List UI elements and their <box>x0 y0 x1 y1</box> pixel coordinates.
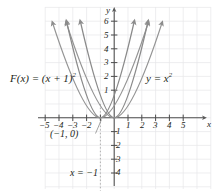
y-axis-title: y <box>106 6 110 15</box>
label-axis-of-symmetry: x = −1 <box>70 168 98 178</box>
x-axis-title: x <box>207 120 211 129</box>
xtick-label--4: −4 <box>53 121 64 130</box>
ytick-label--3: 3 <box>116 155 121 164</box>
xtick-label--2: −2 <box>81 121 92 130</box>
figure-container: F(x) = (x + 1)2 y = x2 (−1, 0) x = −1 x … <box>0 0 221 196</box>
xtick-label-1: 1 <box>126 121 131 130</box>
ytick-label--4: 4 <box>116 168 121 177</box>
ytick-label-5: 5 <box>104 31 109 40</box>
ytick-label-3: 3 <box>104 58 109 67</box>
ytick-label-1: 1 <box>104 86 109 95</box>
label-vertex-point: (−1, 0) <box>50 129 78 139</box>
xtick-label--3: −3 <box>67 121 78 130</box>
parabola-graph <box>0 0 221 196</box>
xtick-label-2: 2 <box>140 121 145 130</box>
xtick-label--5: −5 <box>39 121 50 130</box>
xtick-label-3: 3 <box>153 121 158 130</box>
label-F-of-x: F(x) = (x + 1)2 <box>10 72 76 84</box>
ytick-label--2: 2 <box>116 141 121 150</box>
xtick-label-4: 4 <box>167 121 172 130</box>
ytick-label--1: 1 <box>116 127 121 136</box>
ytick-label-6: 6 <box>104 17 109 26</box>
ytick-label-4: 4 <box>104 45 109 54</box>
xtick-label-5: 5 <box>181 121 186 130</box>
label-y-equals-x-squared: y = x2 <box>146 72 172 84</box>
ytick-label-2: 2 <box>104 72 109 81</box>
